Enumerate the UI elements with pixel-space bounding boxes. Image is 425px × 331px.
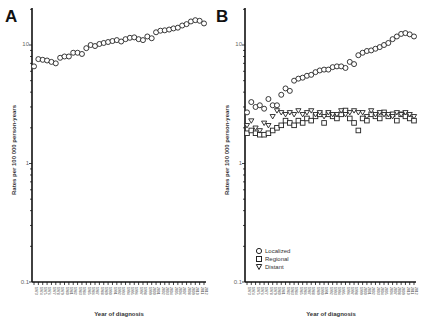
x-tick-label: 1985 xyxy=(87,287,91,295)
data-point xyxy=(322,121,327,126)
data-point xyxy=(287,88,292,93)
x-tick-label: 1999 xyxy=(148,287,152,295)
figure: A 10 1 0.1 Rates per 100 000 person-year… xyxy=(0,0,425,331)
x-tick-label: 1986 xyxy=(303,287,307,295)
x-tick-label: 1997 xyxy=(350,287,354,295)
x-tick-label: 1974 xyxy=(251,287,255,295)
panel-b-legend: Localized Regional Distant xyxy=(256,248,290,270)
x-tick-label: 1975 xyxy=(256,287,260,295)
panel-b-ytick-0.1: 0.1 xyxy=(234,279,243,285)
x-tick-label: 1996 xyxy=(134,287,138,295)
data-point xyxy=(386,40,391,45)
x-tick-label: 2004 xyxy=(380,287,384,295)
legend-circle-icon xyxy=(256,248,261,253)
x-tick-label: 2006 xyxy=(389,287,393,295)
data-point xyxy=(321,115,326,119)
panel-a: A 10 1 0.1 Rates per 100 000 person-year… xyxy=(5,7,208,317)
x-tick-label: 1981 xyxy=(69,287,73,295)
legend-regional: Regional xyxy=(265,256,289,262)
panel-a-x-ticks: 1973197419751976197719781979198019811982… xyxy=(34,282,208,295)
data-point xyxy=(262,106,267,111)
data-point xyxy=(352,121,357,126)
x-tick-label: 1995 xyxy=(341,287,345,295)
panel-b-label: B xyxy=(216,7,228,26)
x-tick-label: 1980 xyxy=(277,287,281,295)
x-tick-label: 1989 xyxy=(316,287,320,295)
x-tick-label: 2003 xyxy=(376,287,380,295)
data-point xyxy=(84,46,89,51)
legend-localized: Localized xyxy=(265,248,290,254)
x-tick-label: 1994 xyxy=(337,287,341,295)
data-point xyxy=(279,123,284,128)
data-point xyxy=(266,97,271,102)
data-point xyxy=(356,128,361,133)
legend-triangle-down-icon xyxy=(256,265,261,270)
x-tick-label: 1992 xyxy=(117,287,121,295)
x-tick-label: 1981 xyxy=(281,287,285,295)
x-tick-label: 1979 xyxy=(273,287,277,295)
x-tick-label: 2005 xyxy=(384,287,388,295)
x-tick-label: 2003 xyxy=(165,287,169,295)
x-tick-label: 1984 xyxy=(294,287,298,295)
x-tick-label: 2004 xyxy=(169,287,173,295)
x-tick-label: 1993 xyxy=(121,287,125,295)
x-tick-label: 1982 xyxy=(286,287,290,295)
x-tick-label: 1983 xyxy=(78,287,82,295)
data-point xyxy=(257,103,262,108)
x-tick-label: 2012 xyxy=(414,287,418,295)
panel-a-xlabel: Year of diagnosis xyxy=(94,311,144,317)
x-tick-label: 1978 xyxy=(269,287,273,295)
x-tick-label: 2010 xyxy=(195,287,199,295)
data-point xyxy=(377,116,382,121)
x-tick-label: 2007 xyxy=(182,287,186,295)
panel-a-ylabel: Rates per 100 000 person-years xyxy=(11,104,17,195)
x-tick-label: 1988 xyxy=(311,287,315,295)
x-tick-label: 2000 xyxy=(152,287,156,295)
data-point xyxy=(274,103,279,108)
x-tick-label: 2009 xyxy=(191,287,195,295)
data-point xyxy=(283,113,288,117)
x-tick-label: 1979 xyxy=(60,287,64,295)
x-tick-label: 2008 xyxy=(397,287,401,295)
data-point xyxy=(149,36,154,41)
data-point xyxy=(266,124,271,128)
data-point xyxy=(279,92,284,97)
data-point xyxy=(304,111,309,115)
x-tick-label: 2009 xyxy=(401,287,405,295)
panel-a-label: A xyxy=(5,7,17,26)
x-tick-label: 1986 xyxy=(91,287,95,295)
x-tick-label: 1976 xyxy=(47,287,51,295)
x-tick-label: 2005 xyxy=(174,287,178,295)
panel-b-xlabel: Year of diagnosis xyxy=(306,311,356,317)
x-tick-label: 1985 xyxy=(299,287,303,295)
panel-b-ytick-1: 1 xyxy=(239,160,243,166)
panel-a-data-points xyxy=(32,18,207,69)
x-tick-label: 1977 xyxy=(52,287,56,295)
x-tick-label: 1998 xyxy=(354,287,358,295)
x-tick-label: 1975 xyxy=(43,287,47,295)
x-tick-label: 1997 xyxy=(139,287,143,295)
panel-b: B 10 1 0.1 Rates per 100 000 person-year… xyxy=(216,7,418,317)
x-tick-label: 1974 xyxy=(39,287,43,295)
data-point xyxy=(347,116,352,121)
data-point xyxy=(343,65,348,70)
x-tick-label: 2002 xyxy=(161,287,165,295)
x-tick-label: 2001 xyxy=(367,287,371,295)
x-tick-label: 1998 xyxy=(143,287,147,295)
panel-b-x-ticks: 1973197419751976197719781979198019811982… xyxy=(247,282,418,295)
panel-a-ytick-1: 1 xyxy=(26,160,30,166)
x-tick-label: 1978 xyxy=(56,287,60,295)
data-point xyxy=(270,115,275,119)
data-point xyxy=(66,54,71,59)
x-tick-label: 1987 xyxy=(307,287,311,295)
data-point xyxy=(395,118,400,123)
data-point xyxy=(292,123,297,128)
x-tick-label: 1977 xyxy=(264,287,268,295)
x-tick-label: 2006 xyxy=(178,287,182,295)
x-tick-label: 1988 xyxy=(100,287,104,295)
x-tick-label: 2011 xyxy=(410,287,414,294)
legend-distant: Distant xyxy=(265,264,284,270)
x-tick-label: 1991 xyxy=(324,287,328,295)
x-tick-label: 1989 xyxy=(104,287,108,295)
data-point xyxy=(202,21,207,26)
